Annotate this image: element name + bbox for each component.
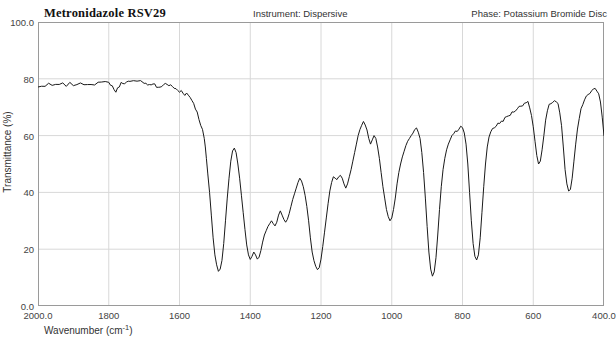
x-axis-title: Wavenumber (cm-1) [44, 323, 133, 336]
x-tick-label: 800 [455, 310, 471, 321]
x-tick-label: 2000.0 [23, 310, 52, 321]
x-tick-label: 1600 [169, 310, 190, 321]
x-tick-label: 1800 [98, 310, 119, 321]
y-tick-label: 100.0 [10, 17, 34, 28]
y-axis-title: Transmittance (%) [2, 111, 13, 192]
y-tick-label: 40 [23, 187, 34, 198]
y-tick-label: 60 [23, 130, 34, 141]
x-tick-label: 1200 [310, 310, 331, 321]
y-tick-label: 20 [23, 244, 34, 255]
x-tick-label: 1000 [381, 310, 402, 321]
x-axis-title-main: Wavenumber (cm [44, 325, 123, 336]
x-tick-label: 400.0 [592, 310, 616, 321]
y-tick-label: 80 [23, 73, 34, 84]
x-axis-title-tail: ) [129, 325, 132, 336]
x-tick-label: 1400 [240, 310, 261, 321]
x-tick-label: 600 [525, 310, 541, 321]
